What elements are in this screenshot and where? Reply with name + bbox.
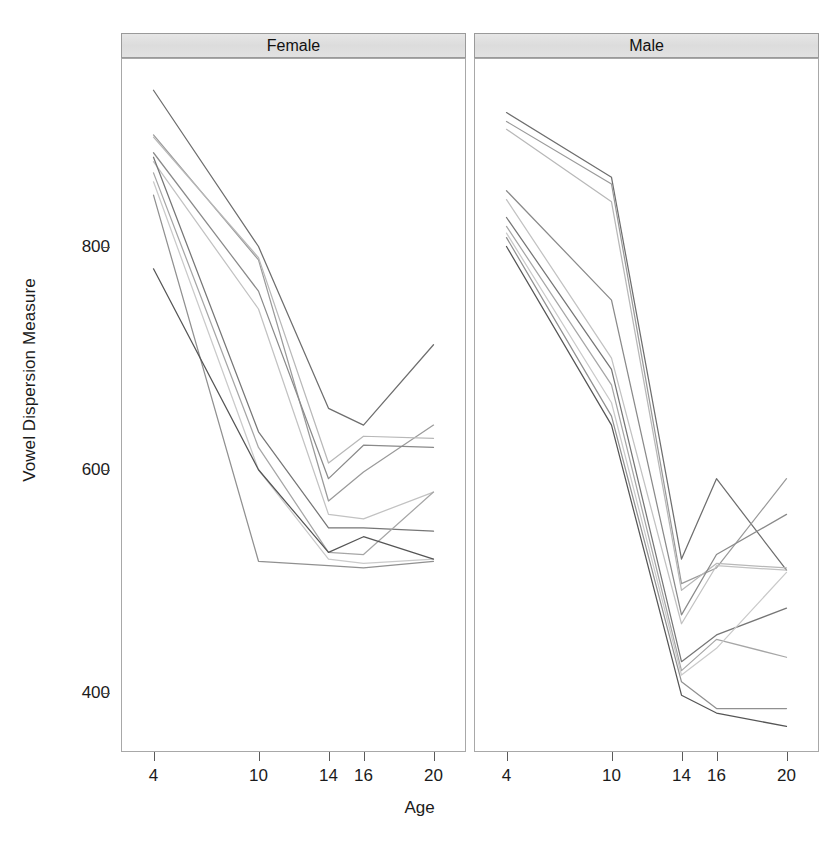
x-tick-mark <box>329 752 330 761</box>
plot-area-male <box>474 58 819 752</box>
y-tick-mark <box>101 247 110 248</box>
plot-area-female <box>121 58 466 752</box>
x-tick-label: 16 <box>354 766 373 786</box>
x-tick-mark <box>612 752 613 761</box>
facet-panel-male: Male <box>474 33 819 752</box>
x-tick-mark <box>154 752 155 761</box>
facet-strip-label-male: Male <box>629 37 664 55</box>
series-line <box>507 129 787 590</box>
x-tick-label: 4 <box>149 766 158 786</box>
facet-strip-male: Male <box>474 33 819 58</box>
y-axis-ticks: 400600800 <box>52 59 110 751</box>
series-line <box>507 238 787 709</box>
x-axis-label: Age <box>0 798 839 818</box>
series-line <box>507 247 787 727</box>
x-tick-mark <box>364 752 365 761</box>
y-tick-mark <box>101 693 110 694</box>
facet-strip-female: Female <box>121 33 466 58</box>
facet-panel-female: Female <box>121 33 466 752</box>
x-tick-label: 16 <box>707 766 726 786</box>
x-tick-mark <box>259 752 260 761</box>
series-line <box>154 173 434 555</box>
series-line <box>507 233 787 675</box>
x-tick-label: 20 <box>424 766 443 786</box>
series-line <box>507 113 787 571</box>
series-line <box>507 217 787 661</box>
series-line <box>154 182 434 564</box>
series-line <box>154 90 434 425</box>
x-tick-label: 14 <box>319 766 338 786</box>
x-tick-label: 20 <box>777 766 796 786</box>
series-line <box>507 226 787 670</box>
lines-male <box>475 59 818 751</box>
x-tick-label: 10 <box>249 766 268 786</box>
x-tick-mark <box>434 752 435 761</box>
lines-female <box>122 59 465 751</box>
y-axis-label: Vowel Dispersion Measure <box>8 0 52 760</box>
facet-strip-label-female: Female <box>267 37 320 55</box>
x-tick-mark <box>717 752 718 761</box>
series-line <box>154 269 434 559</box>
vowel-dispersion-chart: Vowel Dispersion Measure 400600800 Femal… <box>0 0 839 857</box>
series-line <box>154 153 434 479</box>
x-tick-label: 4 <box>502 766 511 786</box>
x-tick-mark <box>787 752 788 761</box>
series-line <box>154 157 434 531</box>
x-tick-mark <box>507 752 508 761</box>
x-tick-label: 14 <box>672 766 691 786</box>
series-line <box>154 137 434 463</box>
y-tick-mark <box>101 470 110 471</box>
x-tick-label: 10 <box>602 766 621 786</box>
x-tick-mark <box>682 752 683 761</box>
